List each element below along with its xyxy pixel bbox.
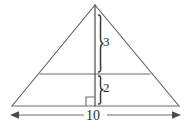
lower-segment-label: 2 bbox=[103, 81, 110, 94]
right-angle-mark bbox=[86, 97, 95, 106]
triangle-left-side bbox=[12, 5, 95, 106]
base-length-label: 10 bbox=[86, 109, 100, 123]
dimension-arrowhead-left bbox=[10, 111, 19, 118]
geometry-figure: 3 2 10 bbox=[0, 0, 189, 130]
upper-segment-label: 3 bbox=[103, 35, 110, 48]
dimension-arrowhead-right bbox=[172, 111, 181, 118]
